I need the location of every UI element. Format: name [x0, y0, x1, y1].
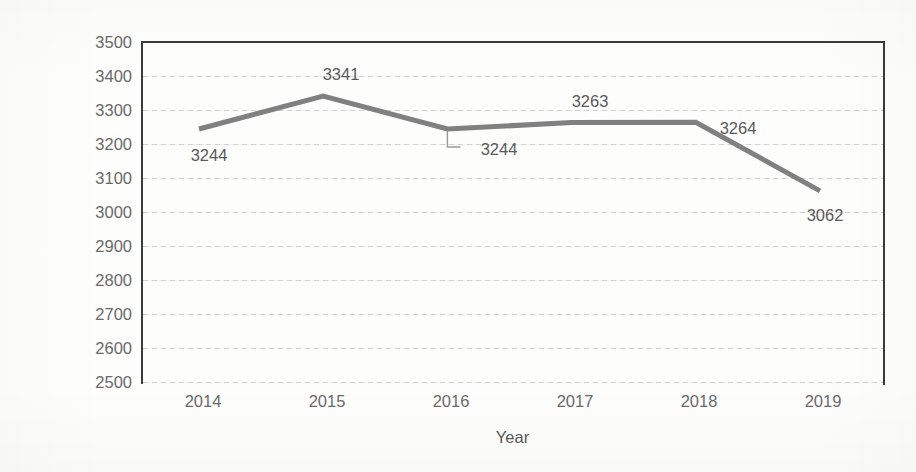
y-axis-line: [141, 41, 143, 384]
y-tick-label: 3100: [62, 169, 132, 188]
gridline: [143, 382, 883, 383]
x-tick-label-2014: 2014: [158, 392, 248, 411]
y-tick-label: 2700: [62, 305, 132, 324]
gridline: [143, 280, 883, 281]
x-tick-label-2018: 2018: [654, 392, 744, 411]
data-label-2014: 3244: [191, 146, 228, 165]
y-tick-label: 3400: [62, 67, 132, 86]
data-label-2018: 3264: [720, 119, 757, 138]
y-tick-label: 2900: [62, 237, 132, 256]
y-tick-label: 3500: [62, 33, 132, 52]
gridline: [143, 76, 883, 77]
x-tick-label-2017: 2017: [530, 392, 620, 411]
gridline: [143, 178, 883, 179]
data-label-2019: 3062: [807, 206, 844, 225]
plot-border-right: [883, 41, 885, 385]
y-tick-label: 3200: [62, 135, 132, 154]
gridline: [143, 212, 883, 213]
data-label-2017: 3263: [572, 92, 609, 111]
y-axis-tick-labels: 3500 3400 3300 3200 3100 3000 2900 2800 …: [60, 0, 132, 472]
data-label-2015: 3341: [323, 65, 360, 84]
plot-border-top: [141, 41, 885, 43]
data-label-2016: 3244: [481, 140, 518, 159]
x-axis-title: Year: [141, 428, 884, 447]
gridline: [143, 110, 883, 111]
x-tick-label-2016: 2016: [406, 392, 496, 411]
x-tick-label-2019: 2019: [778, 392, 868, 411]
y-tick-label: 2500: [62, 373, 132, 392]
y-tick-label: 3300: [62, 101, 132, 120]
chart-canvas: Number of casualties & incidents 3500 34…: [0, 0, 916, 472]
y-tick-label: 2600: [62, 339, 132, 358]
y-tick-label: 2800: [62, 271, 132, 290]
gridline: [143, 348, 883, 349]
gridline: [143, 314, 883, 315]
y-tick-label: 3000: [62, 203, 132, 222]
x-tick-label-2015: 2015: [282, 392, 372, 411]
gridline: [143, 246, 883, 247]
